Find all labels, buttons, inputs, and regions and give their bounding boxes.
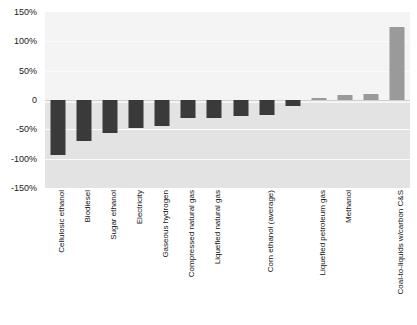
bar: [233, 100, 248, 116]
y-axis: 150%100%50%0-50%-100%-150%: [0, 0, 41, 325]
x-axis-label-slot: Liquefied petroleum gas: [306, 190, 332, 323]
x-axis-tick-label: Gaseous hydrogen: [162, 190, 170, 258]
y-axis-tick-label: 50%: [19, 66, 37, 76]
x-axis-tick-label: Coal-to-liquids w/carbon C&S: [397, 190, 405, 295]
x-axis-tick-label: Sugar ethanol: [110, 190, 118, 240]
x-axis-tick-label: Biodiesel: [84, 190, 92, 222]
bar: [285, 100, 300, 106]
bar-slot: [384, 12, 410, 188]
x-axis-label-slot: Coal-to-liquids w/carbon C&S: [384, 190, 410, 323]
bar: [311, 98, 326, 100]
bar: [103, 100, 118, 133]
bar: [259, 100, 274, 115]
x-axis-label-slot: Biodiesel: [71, 190, 97, 323]
bar: [363, 94, 378, 100]
bar-slot: [358, 12, 384, 188]
x-axis-tick-label: Cellulosic ethanol: [58, 190, 66, 253]
x-axis-tick-label: Electricity: [136, 190, 144, 224]
x-axis-labels: Cellulosic ethanolBiodieselSugar ethanol…: [45, 190, 410, 323]
bar: [389, 27, 404, 100]
bar-group: [45, 12, 410, 188]
bar-slot: [201, 12, 227, 188]
y-axis-tick-label: 0: [32, 95, 37, 105]
x-axis-label-slot: Corn ethanol (average): [254, 190, 280, 323]
x-axis-label-slot: Methanol: [332, 190, 358, 323]
bar-slot: [97, 12, 123, 188]
bar: [181, 100, 196, 118]
x-axis-tick-label: Liquefied natural gas: [214, 190, 222, 264]
bar-slot: [123, 12, 149, 188]
x-axis-tick-label: Liquefied petroleum gas: [319, 190, 327, 275]
chart-figure: 150%100%50%0-50%-100%-150% Cellulosic et…: [0, 0, 417, 325]
y-axis-tick-label: -150%: [11, 183, 37, 193]
y-axis-tick-label: -50%: [16, 124, 37, 134]
x-axis-label-slot: Gaseous hydrogen: [149, 190, 175, 323]
bar: [337, 95, 352, 100]
bar: [155, 100, 170, 126]
x-axis-tick-label: Corn ethanol (average): [267, 190, 275, 272]
bar: [207, 100, 222, 118]
bar-slot: [149, 12, 175, 188]
y-axis-tick-label: -100%: [11, 154, 37, 164]
bar: [77, 100, 92, 141]
bar: [129, 100, 144, 128]
x-axis-label-slot: Liquefied natural gas: [201, 190, 227, 323]
bar-slot: [45, 12, 71, 188]
x-axis-label-slot: Compressed natural gas: [175, 190, 201, 323]
x-axis-label-slot: Sugar ethanol: [97, 190, 123, 323]
x-axis-tick-label: Compressed natural gas: [188, 190, 196, 277]
x-axis-label-slot: Electricity: [123, 190, 149, 323]
bar-slot: [332, 12, 358, 188]
bar-slot: [71, 12, 97, 188]
bar: [51, 100, 66, 155]
x-axis-label-slot: Cellulosic ethanol: [45, 190, 71, 323]
bar-slot: [306, 12, 332, 188]
plot-area: [45, 12, 410, 188]
bar-slot: [175, 12, 201, 188]
y-axis-tick-label: 100%: [14, 36, 37, 46]
x-axis-tick-label: Methanol: [345, 190, 353, 223]
bar-slot: [280, 12, 306, 188]
bar-slot: [254, 12, 280, 188]
y-axis-tick-label: 150%: [14, 7, 37, 17]
bar-slot: [228, 12, 254, 188]
